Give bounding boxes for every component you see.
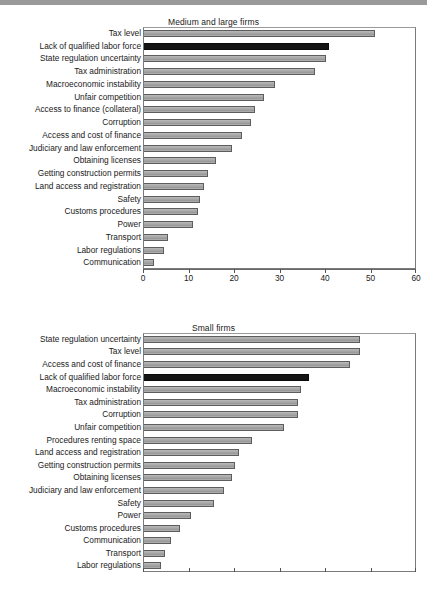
bar-category-label: Access and cost of finance bbox=[0, 131, 143, 140]
bar bbox=[143, 437, 252, 444]
table-row: Unfair competition bbox=[0, 91, 427, 104]
bar bbox=[143, 106, 255, 113]
bar bbox=[143, 500, 214, 507]
table-row: Obtaining licenses bbox=[0, 472, 427, 485]
x-axis-tick bbox=[189, 568, 190, 572]
bar bbox=[143, 525, 180, 532]
bar-category-label: Land access and registration bbox=[0, 182, 143, 191]
x-axis-tick bbox=[280, 568, 281, 572]
bar-category-label: State regulation uncertainty bbox=[0, 54, 143, 63]
table-row: Corruption bbox=[0, 409, 427, 422]
bar-category-label: Judiciary and law enforcement bbox=[0, 486, 143, 495]
chart-title-bottom: Small firms bbox=[0, 315, 427, 333]
table-row: Tax administration bbox=[0, 396, 427, 409]
x-axis-tick-label: 30 bbox=[275, 273, 284, 283]
bar-category-label: Access and cost of finance bbox=[0, 360, 143, 369]
bar-track bbox=[143, 104, 416, 117]
table-row: Tax level bbox=[0, 27, 427, 40]
table-row: Judiciary and law enforcement bbox=[0, 484, 427, 497]
bar-track bbox=[143, 155, 416, 168]
bar-track bbox=[143, 522, 416, 535]
bar bbox=[143, 336, 360, 343]
bar bbox=[143, 183, 204, 190]
bar-track bbox=[143, 206, 416, 219]
bar-category-label: Obtaining licenses bbox=[0, 156, 143, 165]
bar-category-label: Tax level bbox=[0, 29, 143, 38]
bar-category-label: Macroeconomic instability bbox=[0, 80, 143, 89]
bar-track bbox=[143, 396, 416, 409]
bar-track bbox=[143, 180, 416, 193]
bar-category-label: Access to finance (collateral) bbox=[0, 105, 143, 114]
bar bbox=[143, 386, 301, 393]
table-row: Customs procedures bbox=[0, 522, 427, 535]
bar-category-label: Labor regulations bbox=[0, 561, 143, 570]
bar bbox=[143, 196, 200, 203]
bar-category-label: Lack of qualified labor force bbox=[0, 373, 143, 382]
table-row: Access to finance (collateral) bbox=[0, 104, 427, 117]
bar-track bbox=[143, 65, 416, 78]
bar bbox=[143, 94, 264, 101]
bar-category-label: Transport bbox=[0, 233, 143, 242]
bar bbox=[143, 170, 208, 177]
x-axis-tick-label: 60 bbox=[411, 273, 420, 283]
bar-category-label: Procedures renting space bbox=[0, 436, 143, 445]
bar-category-label: Tax administration bbox=[0, 398, 143, 407]
bar bbox=[143, 157, 216, 164]
bar-category-label: Corruption bbox=[0, 410, 143, 419]
bar bbox=[143, 208, 198, 215]
bar-track bbox=[143, 358, 416, 371]
bar-category-label: Customs procedures bbox=[0, 524, 143, 533]
bar bbox=[143, 550, 165, 557]
x-axis-tick bbox=[143, 568, 144, 572]
table-row: Lack of qualified labor force bbox=[0, 371, 427, 384]
bar-category-label: Communication bbox=[0, 536, 143, 545]
x-axis-tick-label: 40 bbox=[320, 273, 329, 283]
bar bbox=[143, 512, 191, 519]
bar-track bbox=[143, 167, 416, 180]
chart-title-top: Medium and large firms bbox=[0, 5, 427, 27]
bar bbox=[143, 221, 193, 228]
bar-track bbox=[143, 446, 416, 459]
bar-rows-bottom: State regulation uncertaintyTax levelAcc… bbox=[0, 333, 427, 572]
bar-track bbox=[143, 116, 416, 129]
bar-category-label: Getting construction permits bbox=[0, 169, 143, 178]
bar-track bbox=[143, 371, 416, 384]
bar-category-label: Power bbox=[0, 511, 143, 520]
bar bbox=[143, 145, 232, 152]
bar-track bbox=[143, 129, 416, 142]
bar-track bbox=[143, 421, 416, 434]
bar-track bbox=[143, 409, 416, 422]
table-row: Power bbox=[0, 218, 427, 231]
bar-category-label: Tax administration bbox=[0, 67, 143, 76]
bar-track bbox=[143, 472, 416, 485]
bar bbox=[143, 487, 224, 494]
bar-category-label: Corruption bbox=[0, 118, 143, 127]
bar-track bbox=[143, 547, 416, 560]
table-row: Transport bbox=[0, 231, 427, 244]
bar bbox=[143, 119, 251, 126]
bar bbox=[143, 462, 235, 469]
bar bbox=[143, 449, 239, 456]
table-row: State regulation uncertainty bbox=[0, 333, 427, 346]
x-axis-tick-label: 50 bbox=[366, 273, 375, 283]
table-row: Labor regulations bbox=[0, 560, 427, 573]
table-row: Macroeconomic instability bbox=[0, 383, 427, 396]
bar bbox=[143, 562, 161, 569]
x-axis-tick bbox=[234, 568, 235, 572]
table-row: Macroeconomic instability bbox=[0, 78, 427, 91]
table-row: Communication bbox=[0, 257, 427, 270]
bar-track bbox=[143, 484, 416, 497]
bar-category-label: Safety bbox=[0, 499, 143, 508]
bar-track bbox=[143, 142, 416, 155]
bar-category-label: Safety bbox=[0, 195, 143, 204]
table-row: Procedures renting space bbox=[0, 434, 427, 447]
bar-category-label: Transport bbox=[0, 549, 143, 558]
bar-track bbox=[143, 193, 416, 206]
bar-track bbox=[143, 78, 416, 91]
bar-track bbox=[143, 91, 416, 104]
bar-track bbox=[143, 40, 416, 53]
bar-category-label: Judiciary and law enforcement bbox=[0, 144, 143, 153]
bar-track bbox=[143, 383, 416, 396]
bar-track bbox=[143, 434, 416, 447]
plot-area-top: Tax levelLack of qualified labor forceSt… bbox=[0, 27, 427, 269]
